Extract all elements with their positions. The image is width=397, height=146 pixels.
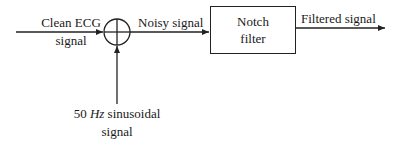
noise-label-line1: 50 Hz sinusoidal: [52, 106, 182, 121]
summing-junction-icon: [104, 19, 130, 45]
noise-label-line2: signal: [52, 124, 182, 139]
input-label-line1: Clean ECG: [38, 15, 104, 30]
input-label-line2: signal: [38, 33, 104, 48]
filtered-signal-label: Filtered signal: [301, 11, 376, 26]
filter-label-line1: Notch: [237, 13, 269, 30]
filter-label-line2: filter: [237, 30, 269, 47]
noise-unit: Hz: [90, 106, 104, 121]
noisy-signal-label: Noisy signal: [138, 15, 203, 30]
notch-filter-block: Notch filter: [210, 6, 296, 54]
noise-type: sinusoidal: [104, 106, 160, 121]
input-label: Clean ECG signal: [38, 15, 104, 48]
noise-label: 50 Hz sinusoidal signal: [52, 106, 182, 139]
noise-freq: 50: [74, 106, 90, 121]
